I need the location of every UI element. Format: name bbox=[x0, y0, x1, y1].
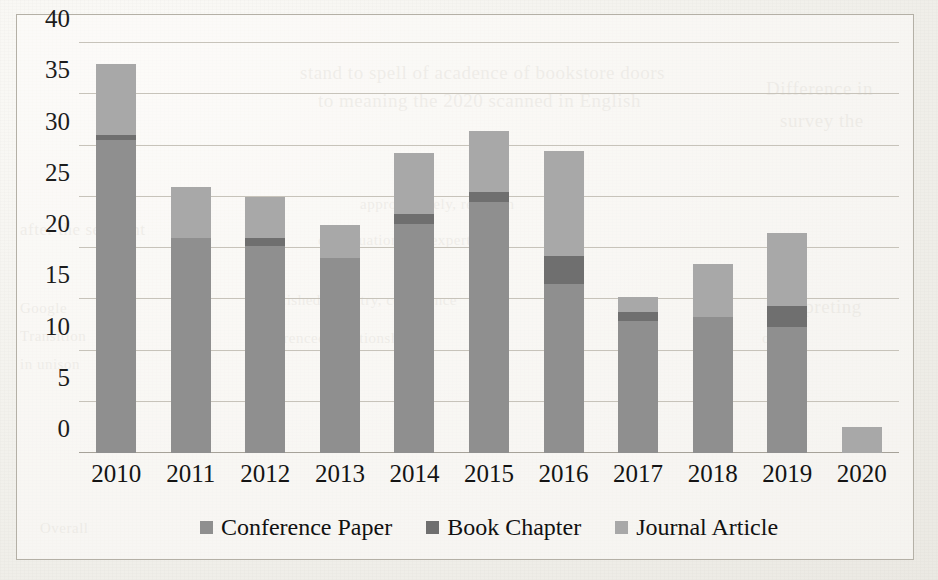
x-axis-tick-label: 2020 bbox=[824, 461, 899, 486]
bar-slot bbox=[377, 43, 452, 453]
stacked-bar[interactable] bbox=[767, 233, 807, 453]
y-axis-tick-label: 20 bbox=[45, 211, 70, 236]
bar-slot bbox=[303, 43, 378, 453]
legend-label: Book Chapter bbox=[447, 515, 581, 539]
y-axis-tick-label: 10 bbox=[45, 313, 70, 338]
bar-slot bbox=[154, 43, 229, 453]
stacked-bar[interactable] bbox=[245, 197, 285, 453]
bar-segment-book[interactable] bbox=[544, 256, 584, 284]
x-axis-tick-label: 2011 bbox=[154, 461, 229, 486]
bar-slot bbox=[824, 43, 899, 453]
stacked-bar[interactable] bbox=[96, 64, 136, 454]
bar-segment-journal[interactable] bbox=[544, 151, 584, 257]
bar-segment-journal[interactable] bbox=[320, 225, 360, 258]
bar-segment-book[interactable] bbox=[245, 238, 285, 246]
stacked-bar[interactable] bbox=[544, 151, 584, 453]
x-axis-tick-label: 2014 bbox=[377, 461, 452, 486]
bar-segment-journal[interactable] bbox=[96, 64, 136, 136]
stacked-bar[interactable] bbox=[394, 153, 434, 453]
x-axis-tick-label: 2019 bbox=[750, 461, 825, 486]
stacked-bar[interactable] bbox=[842, 427, 882, 453]
stacked-bar[interactable] bbox=[320, 225, 360, 453]
y-axis-tick-label: 15 bbox=[45, 262, 70, 287]
bar-segment-conference[interactable] bbox=[320, 258, 360, 453]
legend-label: Journal Article bbox=[636, 515, 778, 539]
x-axis-tick-label: 2015 bbox=[452, 461, 527, 486]
x-axis-tick-label: 2016 bbox=[526, 461, 601, 486]
bar-slot bbox=[452, 43, 527, 453]
bar-segment-conference[interactable] bbox=[96, 140, 136, 453]
y-axis-tick-label: 25 bbox=[45, 159, 70, 184]
legend-label: Conference Paper bbox=[221, 515, 392, 539]
bar-segment-conference[interactable] bbox=[171, 238, 211, 453]
bar-segment-conference[interactable] bbox=[245, 246, 285, 453]
bar-slot bbox=[526, 43, 601, 453]
bar-segment-book[interactable] bbox=[394, 214, 434, 224]
y-axis-tick-label: 30 bbox=[45, 108, 70, 133]
bar-segment-journal[interactable] bbox=[693, 264, 733, 316]
stacked-bar[interactable] bbox=[171, 187, 211, 454]
chart-legend: Conference PaperBook ChapterJournal Arti… bbox=[79, 515, 899, 539]
y-axis-tick-label: 0 bbox=[58, 416, 71, 441]
bar-segment-conference[interactable] bbox=[767, 327, 807, 453]
x-axis-tick-label: 2012 bbox=[228, 461, 303, 486]
x-axis-tick-label: 2018 bbox=[675, 461, 750, 486]
bar-segment-journal[interactable] bbox=[245, 197, 285, 238]
legend-swatch-icon bbox=[615, 521, 628, 534]
x-axis-tick-label: 2010 bbox=[79, 461, 154, 486]
legend-swatch-icon bbox=[426, 521, 439, 534]
bar-segment-conference[interactable] bbox=[618, 321, 658, 453]
legend-swatch-icon bbox=[200, 521, 213, 534]
bar-slot bbox=[675, 43, 750, 453]
bar-segment-book[interactable] bbox=[618, 312, 658, 321]
bar-segment-conference[interactable] bbox=[469, 202, 509, 453]
stacked-bar[interactable] bbox=[618, 297, 658, 453]
y-axis-tick-label: 5 bbox=[58, 364, 71, 389]
bar-segment-conference[interactable] bbox=[693, 317, 733, 453]
y-axis-tick-label: 35 bbox=[45, 57, 70, 82]
bar-segment-book[interactable] bbox=[767, 306, 807, 327]
bar-segment-journal[interactable] bbox=[767, 233, 807, 307]
bar-segment-journal[interactable] bbox=[394, 153, 434, 215]
bar-segment-journal[interactable] bbox=[842, 427, 882, 453]
stacked-bar[interactable] bbox=[693, 264, 733, 453]
chart-frame: 0510152025303540 20102011201220132014201… bbox=[16, 14, 914, 560]
legend-item[interactable]: Book Chapter bbox=[426, 515, 581, 539]
bar-segment-conference[interactable] bbox=[394, 224, 434, 453]
bar-segment-journal[interactable] bbox=[469, 131, 509, 191]
bar-segment-journal[interactable] bbox=[171, 187, 211, 238]
bar-slot bbox=[79, 43, 154, 453]
x-axis-tick-labels: 2010201120122013201420152016201720182019… bbox=[79, 461, 899, 486]
x-axis-tick-label: 2013 bbox=[303, 461, 378, 486]
bar-slot bbox=[228, 43, 303, 453]
bar-segment-journal[interactable] bbox=[618, 297, 658, 311]
bar-segment-book[interactable] bbox=[469, 192, 509, 202]
bar-slot bbox=[601, 43, 676, 453]
bar-group bbox=[79, 43, 899, 453]
bar-segment-conference[interactable] bbox=[544, 284, 584, 453]
bar-slot bbox=[750, 43, 825, 453]
plot-area: 0510152025303540 bbox=[79, 43, 899, 453]
stacked-bar[interactable] bbox=[469, 131, 509, 453]
x-axis-tick-label: 2017 bbox=[601, 461, 676, 486]
y-axis-tick-label: 40 bbox=[45, 6, 70, 31]
legend-item[interactable]: Conference Paper bbox=[200, 515, 392, 539]
legend-item[interactable]: Journal Article bbox=[615, 515, 778, 539]
chart-page: stand to spell of acadence of bookstore … bbox=[0, 0, 938, 580]
